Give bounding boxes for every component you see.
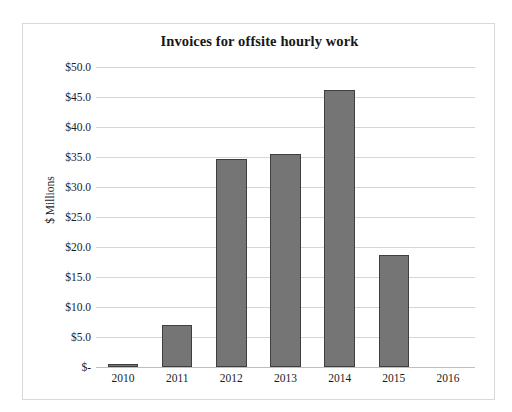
bar-2015 xyxy=(379,255,409,367)
y-axis-tick-label: $5.0 xyxy=(31,331,91,343)
x-axis-tick-label: 2015 xyxy=(367,372,421,384)
bar-2013 xyxy=(270,154,300,367)
bar-2014 xyxy=(324,90,354,367)
chart-title: Invoices for offsite hourly work xyxy=(23,33,496,50)
x-axis-tick-labels: 2010201120122013201420152016 xyxy=(96,372,475,394)
y-axis-tick-label: $15.0 xyxy=(31,271,91,283)
gridline xyxy=(96,367,475,368)
y-axis-tick-label: $40.0 xyxy=(31,121,91,133)
y-axis-tick-label: $20.0 xyxy=(31,241,91,253)
x-axis-tick-label: 2012 xyxy=(204,372,258,384)
y-axis-tick-label: $50.0 xyxy=(31,61,91,73)
y-axis-tick-label: $30.0 xyxy=(31,181,91,193)
bar-2012 xyxy=(216,159,246,367)
x-axis-tick-label: 2014 xyxy=(313,372,367,384)
y-axis-tick-label: $25.0 xyxy=(31,211,91,223)
y-axis-tick-label: $35.0 xyxy=(31,151,91,163)
x-axis-tick-label: 2016 xyxy=(421,372,475,384)
x-axis-tick-label: 2013 xyxy=(258,372,312,384)
y-axis-tick-label: $10.0 xyxy=(31,301,91,313)
bar-2010 xyxy=(108,364,138,367)
bar-series xyxy=(96,67,475,367)
y-axis-tick-label: $- xyxy=(31,361,91,373)
y-axis-tick-labels: $-$5.0$10.0$15.0$20.0$25.0$30.0$35.0$40.… xyxy=(28,67,91,367)
chart-frame: Invoices for offsite hourly work $ Milli… xyxy=(22,23,495,400)
x-axis-tick-label: 2011 xyxy=(150,372,204,384)
y-axis-tick-label: $45.0 xyxy=(31,91,91,103)
bar-2011 xyxy=(162,325,192,367)
x-axis-tick-label: 2010 xyxy=(96,372,150,384)
